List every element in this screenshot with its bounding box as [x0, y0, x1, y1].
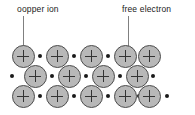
- copper-ion: [46, 85, 69, 108]
- copper-ion: [46, 45, 69, 68]
- copper-ion: [58, 65, 81, 88]
- free-electron: [118, 74, 123, 79]
- free-electron: [50, 74, 55, 79]
- copper-ion: [114, 85, 137, 108]
- free-electron: [38, 54, 43, 59]
- free-electron: [165, 94, 170, 99]
- copper-ion: [92, 65, 115, 88]
- free-electron: [38, 94, 43, 99]
- copper-ion: [12, 45, 35, 68]
- copper-ion: [138, 85, 161, 108]
- copper-ion: [138, 45, 161, 68]
- free-electron: [10, 74, 15, 79]
- copper-ion: [114, 45, 137, 68]
- free-electron: [151, 74, 156, 79]
- copper-ion: [126, 65, 149, 88]
- copper-ion: [24, 65, 47, 88]
- free-electron-label: free electron: [122, 4, 171, 14]
- free-electron: [84, 74, 89, 79]
- free-electron: [106, 94, 111, 99]
- free-electron: [72, 94, 77, 99]
- free-electron: [72, 54, 77, 59]
- free-electron: [106, 54, 111, 59]
- copper-ion: [12, 85, 35, 108]
- copper-ion-label: oopper ion: [17, 4, 59, 14]
- copper-ion: [80, 45, 103, 68]
- copper-ion: [80, 85, 103, 108]
- copper-lattice-diagram: oopper ion free electron: [0, 0, 195, 115]
